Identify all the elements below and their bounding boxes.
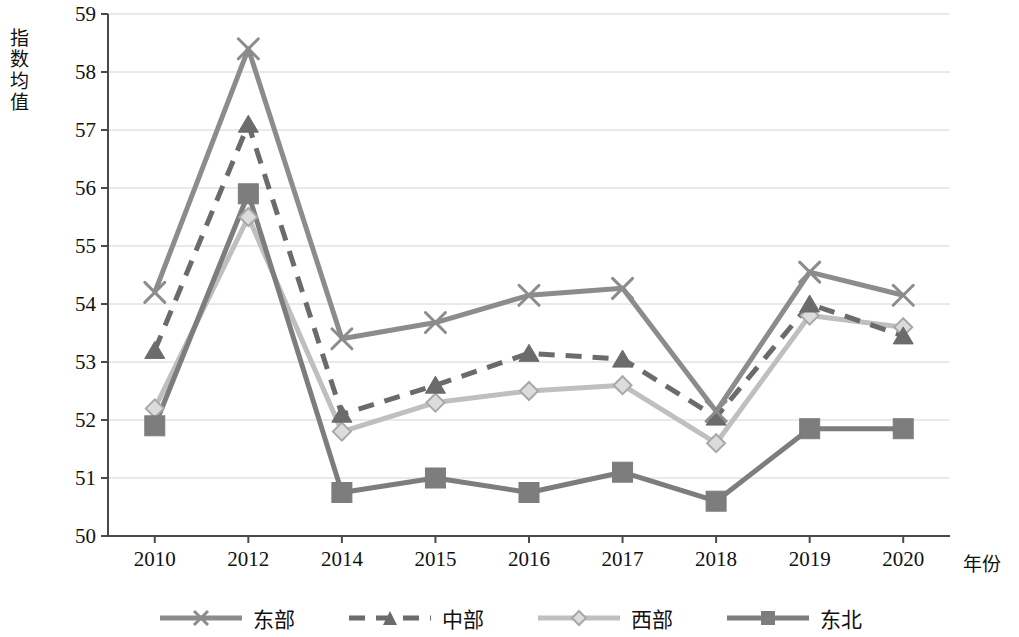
legend-swatch-triangle-icon (347, 607, 433, 629)
legend-item-西部[interactable]: 西部 (536, 603, 673, 633)
chart-legend: 东部中部西部东北 (0, 598, 1019, 637)
data-point-东北 (706, 491, 726, 511)
data-point-东北 (893, 419, 913, 439)
legend-item-东北[interactable]: 东北 (725, 603, 862, 633)
data-point-东北 (800, 419, 820, 439)
plot-area (0, 0, 1019, 637)
data-point-中部 (613, 350, 633, 367)
series-line-中部 (155, 124, 903, 417)
x-tick-label: 2017 (602, 547, 644, 572)
data-point-东北 (519, 483, 539, 503)
legend-swatch-square-icon (725, 607, 811, 629)
data-point-西部 (426, 394, 444, 412)
data-point-东北 (238, 184, 258, 204)
data-point-东北 (425, 468, 445, 488)
data-point-中部 (145, 341, 165, 358)
legend-label: 西部 (631, 603, 673, 633)
x-tick-label: 2019 (789, 547, 831, 572)
legend-swatch-x-icon (158, 607, 244, 629)
x-tick-label: 2010 (134, 547, 176, 572)
legend-label: 中部 (442, 603, 484, 633)
data-point-东北 (613, 462, 633, 482)
x-tick-label: 2012 (227, 547, 269, 572)
x-tick-label: 2014 (321, 547, 363, 572)
data-point-中部 (238, 115, 258, 132)
x-tick-label: 2016 (508, 547, 550, 572)
legend-label: 东北 (820, 603, 862, 633)
legend-item-中部[interactable]: 中部 (347, 603, 484, 633)
data-point-东北 (145, 416, 165, 436)
x-tick-label: 2015 (414, 547, 456, 572)
data-point-西部 (333, 423, 351, 441)
data-point-中部 (519, 344, 539, 361)
legend-item-东部[interactable]: 东部 (158, 603, 295, 633)
x-tick-label: 2018 (695, 547, 737, 572)
data-point-东北 (332, 483, 352, 503)
x-axis-title: 年份 (963, 549, 1001, 576)
legend-label: 东部 (253, 603, 295, 633)
legend-swatch-diamond-icon (536, 607, 622, 629)
line-chart: 指数均值 59585756555453525150 20102012201420… (0, 0, 1019, 637)
x-tick-label: 2020 (882, 547, 924, 572)
data-point-西部 (520, 382, 538, 400)
